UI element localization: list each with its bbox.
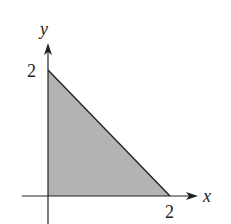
y-tick-label: 2 xyxy=(27,61,36,81)
y-axis-label: y xyxy=(38,19,48,39)
x-tick-label: 2 xyxy=(165,202,174,222)
region-diagram: y 2 2 x xyxy=(0,0,231,224)
x-axis-label: x xyxy=(202,186,211,206)
